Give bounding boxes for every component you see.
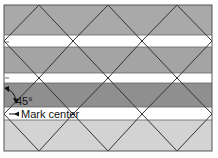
angle-label: 45°	[16, 95, 33, 107]
diamond-diagram: 45° Mark center	[0, 0, 218, 158]
band-dark-gray	[4, 83, 212, 107]
band-white-1	[4, 35, 212, 47]
band-mid-gray	[4, 47, 212, 73]
mark-center-label: Mark center	[21, 108, 79, 120]
